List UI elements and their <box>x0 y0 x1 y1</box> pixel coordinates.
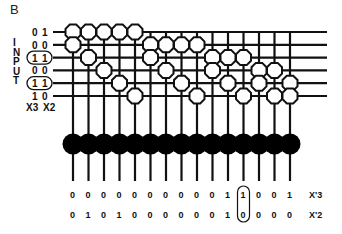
output-x2-value: 0 <box>101 210 106 220</box>
input-x2-value: 1 <box>42 78 48 89</box>
input-x3-value: 0 <box>32 27 38 38</box>
connection-node <box>221 76 236 91</box>
output-x2-value: 0 <box>287 210 292 220</box>
output-x3-value: 0 <box>70 190 75 200</box>
output-x2-value: 0 <box>163 210 168 220</box>
connection-node <box>97 25 112 40</box>
input-x3-value: 1 <box>32 78 38 89</box>
input-x2-value: 1 <box>42 27 48 38</box>
input-x3-value: 0 <box>32 40 38 51</box>
output-x2-value: 0 <box>241 210 246 220</box>
output-x2-value: 0 <box>256 210 261 220</box>
network-diagram: 010011001110INPUTX3X20001000100000000000… <box>0 0 342 234</box>
output-x3-value: 0 <box>101 190 106 200</box>
output-x3-value: 0 <box>256 190 261 200</box>
output-label-x3: X'3 <box>309 190 322 200</box>
output-x2-value: 0 <box>210 210 215 220</box>
output-x2-value: 0 <box>70 210 75 220</box>
output-x3-value: 0 <box>132 190 137 200</box>
input-x2-value: 1 <box>42 53 48 64</box>
input-label-letter: T <box>13 75 19 86</box>
input-header-x2: X2 <box>43 102 56 113</box>
input-x3-value: 0 <box>32 65 38 76</box>
input-highlight-oval <box>27 51 52 64</box>
output-x2-value: 1 <box>86 210 91 220</box>
output-x3-value: 0 <box>117 190 122 200</box>
connection-node <box>267 63 282 78</box>
input-x2-value: 0 <box>42 65 48 76</box>
connection-node <box>174 37 189 52</box>
input-x3-value: 1 <box>32 91 38 102</box>
connection-node <box>159 63 174 78</box>
input-x2-value: 0 <box>42 91 48 102</box>
output-x2-value: 0 <box>132 210 137 220</box>
connection-node <box>221 50 236 65</box>
connection-node <box>159 37 174 52</box>
output-x3-value: 0 <box>210 190 215 200</box>
input-header-x3: X3 <box>26 102 39 113</box>
output-x2-value: 0 <box>272 210 277 220</box>
connection-node <box>81 25 96 40</box>
connection-node <box>143 50 158 65</box>
output-x3-value: 0 <box>148 190 153 200</box>
output-x3-value: 0 <box>194 190 199 200</box>
connection-node <box>128 25 143 40</box>
output-x3-value: 0 <box>179 190 184 200</box>
output-x2-value: 0 <box>194 210 199 220</box>
output-x3-value: 1 <box>287 190 292 200</box>
input-x2-value: 0 <box>42 40 48 51</box>
output-x3-value: 0 <box>272 190 277 200</box>
output-x2-value: 1 <box>117 210 122 220</box>
connection-node <box>205 63 220 78</box>
output-unit-15 <box>280 134 301 155</box>
output-x3-value: 1 <box>241 190 246 200</box>
connection-node <box>128 89 143 104</box>
output-x2-value: 1 <box>225 210 230 220</box>
output-label-x2: X'2 <box>309 210 322 220</box>
connection-node <box>190 37 205 52</box>
connection-node <box>97 63 112 78</box>
input-x3-value: 1 <box>32 53 38 64</box>
output-x3-value: 1 <box>225 190 230 200</box>
connection-node <box>236 50 251 65</box>
connection-node <box>112 25 127 40</box>
connection-node <box>236 89 251 104</box>
connection-node <box>112 76 127 91</box>
connection-node <box>283 89 298 104</box>
output-x3-value: 0 <box>86 190 91 200</box>
connection-node <box>66 37 81 52</box>
connection-node <box>252 76 267 91</box>
connection-node <box>174 76 189 91</box>
connection-node <box>267 89 282 104</box>
connection-node <box>190 89 205 104</box>
output-x3-value: 0 <box>163 190 168 200</box>
connection-node <box>81 50 96 65</box>
input-highlight-oval <box>27 77 52 90</box>
output-x2-value: 0 <box>148 210 153 220</box>
output-x2-value: 0 <box>179 210 184 220</box>
